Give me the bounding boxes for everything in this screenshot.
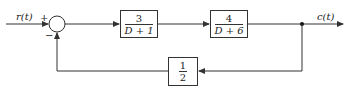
block-2-numerator: 4	[226, 13, 232, 24]
input-label: r(t)	[16, 12, 33, 22]
block-1-numerator: 3	[136, 13, 142, 24]
forward-block-1: 3 D + 1	[120, 10, 158, 38]
feedback-denominator: 2	[180, 72, 186, 83]
minus-sign: −	[45, 31, 53, 41]
plus-sign: +	[40, 13, 48, 23]
output-label: c(t)	[317, 12, 334, 22]
feedback-block: 1 2	[168, 57, 198, 86]
feedback-arrow-out	[57, 33, 168, 71]
forward-block-2: 4 D + 6	[210, 10, 248, 38]
block-2-denominator: D + 6	[214, 25, 243, 36]
block-1-denominator: D + 1	[124, 25, 153, 36]
block-diagram: r(t) + − 3 D + 1 4 D + 6 1 2 c(t)	[0, 0, 347, 88]
feedback-numerator: 1	[180, 60, 186, 71]
